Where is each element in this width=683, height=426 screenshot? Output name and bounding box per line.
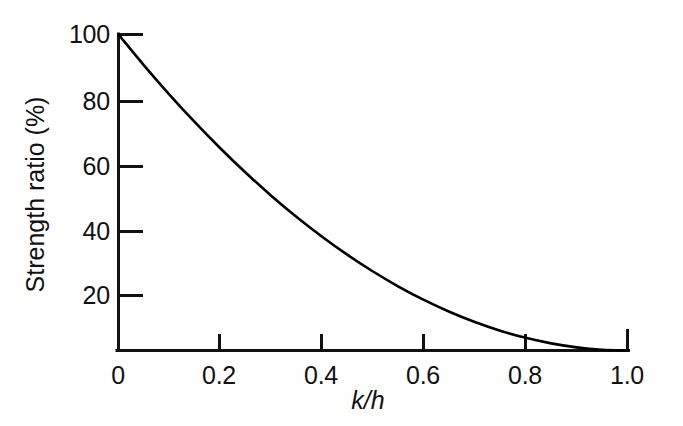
x-tick-label-0: 0 [88,361,148,390]
y-axis-title: Strength ratio (%) [21,75,50,315]
x-tick-label-08: 0.8 [485,361,565,390]
x-tick-label-02: 0.2 [179,361,259,390]
y-tick-label-100: 100 [30,20,110,49]
x-tick-label-10: 1.0 [587,361,667,390]
x-axis-title: k/h [328,386,408,415]
chart-figure: 100 80 60 40 20 0 0.2 0.4 0.6 0.8 1.0 St… [0,0,683,426]
